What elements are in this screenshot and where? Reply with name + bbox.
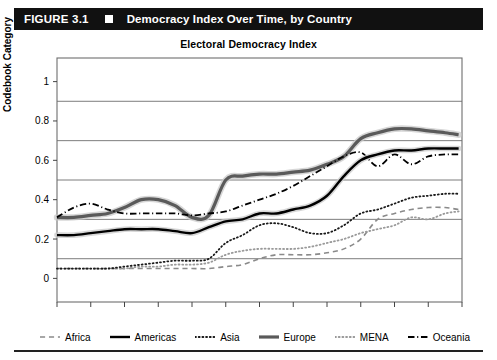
legend-label: Oceania xyxy=(433,332,470,343)
legend-item-americas[interactable]: Americas xyxy=(110,332,177,343)
legend-label: MENA xyxy=(360,332,389,343)
y-tick-label: 0 xyxy=(43,273,49,284)
legend-label: Europe xyxy=(284,332,316,343)
legend-item-oceania[interactable]: Oceania xyxy=(408,332,470,343)
y-axis-ticks-group: 00.20.40.60.81 xyxy=(35,76,57,284)
y-tick-label: 1 xyxy=(43,76,49,87)
y-tick-label: 0.6 xyxy=(35,155,49,166)
legend-label: Americas xyxy=(135,332,177,343)
y-tick-label: 0.2 xyxy=(35,234,49,245)
chart-legend: AfricaAmericasAsiaEuropeMENAOceania xyxy=(40,328,470,346)
legend-swatch-asia-icon xyxy=(195,332,215,342)
figure-header-bar: FIGURE 3.1 Democracy Index Over Time, by… xyxy=(14,8,483,30)
legend-item-mena[interactable]: MENA xyxy=(335,332,389,343)
legend-swatch-americas-icon xyxy=(110,332,130,342)
x-axis-ticks-group: 1900191019201930194019501960197019801990… xyxy=(45,302,469,310)
chart-title: Electoral Democracy Index xyxy=(0,38,497,50)
legend-swatch-oceania-icon xyxy=(408,332,428,342)
legend-item-europe[interactable]: Europe xyxy=(259,332,316,343)
legend-label: Asia xyxy=(220,332,239,343)
chart-plot-area: 00.20.40.60.81 1900191019201930194019501… xyxy=(0,52,497,310)
figure-title: Democracy Index Over Time, by Country xyxy=(127,13,352,25)
figure-number: FIGURE 3.1 xyxy=(24,13,89,25)
legend-item-africa[interactable]: Africa xyxy=(40,332,91,343)
square-bullet-icon xyxy=(105,15,113,23)
y-tick-label: 0.8 xyxy=(35,115,49,126)
legend-label: Africa xyxy=(65,332,91,343)
bottom-divider xyxy=(14,350,483,352)
legend-swatch-mena-icon xyxy=(335,332,355,342)
legend-swatch-africa-icon xyxy=(40,332,60,342)
legend-swatch-europe-icon xyxy=(259,332,279,342)
y-tick-label: 0.4 xyxy=(35,194,49,205)
line-chart-svg: 00.20.40.60.81 1900191019201930194019501… xyxy=(0,52,497,310)
legend-item-asia[interactable]: Asia xyxy=(195,332,239,343)
